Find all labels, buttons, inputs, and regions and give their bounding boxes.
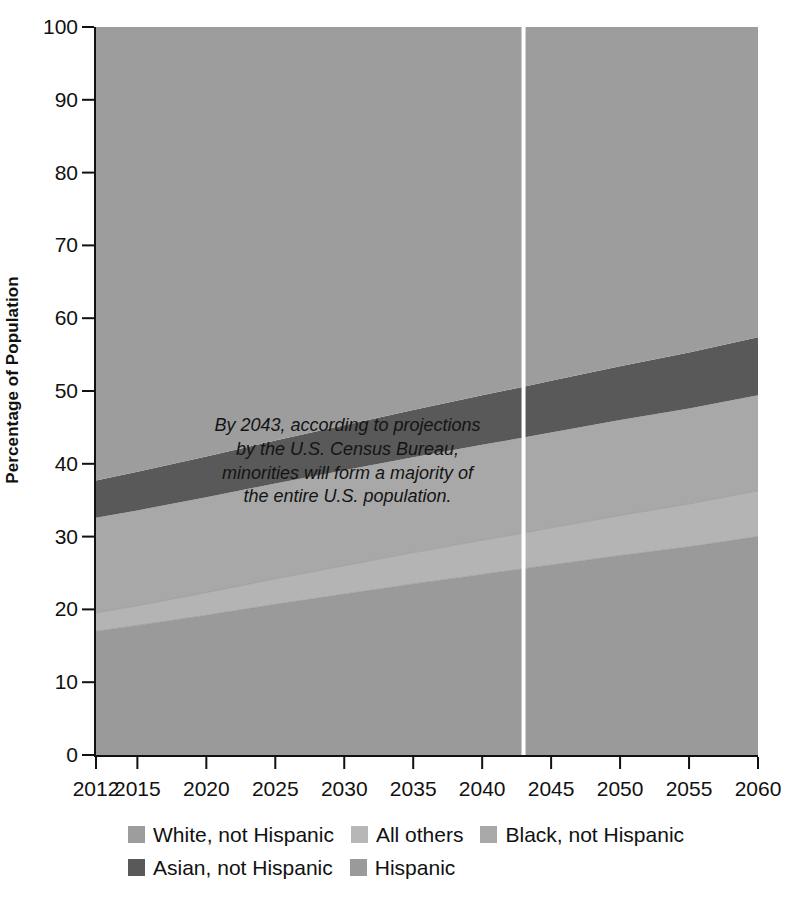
legend-swatch-icon <box>480 826 497 843</box>
legend-label: Black, not Hispanic <box>505 823 684 847</box>
legend-item[interactable]: Asian, not Hispanic <box>128 856 333 880</box>
y-tick-mark <box>82 536 94 538</box>
y-axis-line <box>94 27 96 757</box>
legend-row: Asian, not HispanicHispanic <box>128 851 768 884</box>
x-tick-mark <box>274 757 276 769</box>
y-tick-mark <box>82 317 94 319</box>
legend-swatch-icon <box>350 859 367 876</box>
legend-item[interactable]: White, not Hispanic <box>128 823 334 847</box>
y-tick-mark <box>82 754 94 756</box>
legend-item[interactable]: Hispanic <box>350 856 456 880</box>
legend-swatch-icon <box>128 859 145 876</box>
legend-swatch-icon <box>351 826 368 843</box>
chart-annotation: By 2043, according to projections by the… <box>175 414 520 509</box>
y-tick-mark <box>82 608 94 610</box>
legend-label: All others <box>376 823 464 847</box>
x-tick-mark <box>619 757 621 769</box>
y-tick-mark <box>82 26 94 28</box>
x-tick-mark <box>550 757 552 769</box>
y-tick-mark <box>82 390 94 392</box>
marker-line-2043 <box>522 27 526 755</box>
legend-item[interactable]: Black, not Hispanic <box>480 823 684 847</box>
y-tick-mark <box>82 172 94 174</box>
y-tick-mark <box>82 244 94 246</box>
x-tick-mark <box>95 757 97 769</box>
legend-item[interactable]: All others <box>351 823 464 847</box>
y-tick-mark <box>82 463 94 465</box>
y-tick-mark <box>82 99 94 101</box>
legend-swatch-icon <box>128 826 145 843</box>
legend-row: White, not HispanicAll othersBlack, not … <box>128 818 768 851</box>
y-tick-mark <box>82 681 94 683</box>
legend-label: Asian, not Hispanic <box>153 856 333 880</box>
stacked-area-chart-figure: Percentage of Population 010203040506070… <box>0 0 786 901</box>
x-tick-mark <box>688 757 690 769</box>
legend-label: Hispanic <box>375 856 456 880</box>
x-tick-mark <box>757 757 759 769</box>
x-tick-mark <box>481 757 483 769</box>
legend-label: White, not Hispanic <box>153 823 334 847</box>
x-tick-mark <box>205 757 207 769</box>
x-axis-line <box>94 755 758 757</box>
x-tick-mark <box>343 757 345 769</box>
x-tick-mark <box>136 757 138 769</box>
chart-legend: White, not HispanicAll othersBlack, not … <box>128 818 768 884</box>
x-tick-mark <box>412 757 414 769</box>
